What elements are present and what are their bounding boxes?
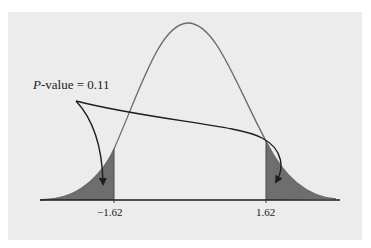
p-letter: P [33, 77, 41, 92]
tick-label-right: 1.62 [256, 206, 275, 218]
normal-curve-plot [0, 0, 371, 248]
tick-label-left: −1.62 [97, 206, 122, 218]
p-value-text: -value = 0.11 [41, 77, 110, 92]
p-value-annotation: P-value = 0.11 [33, 77, 110, 93]
arrow-to-left-tail [76, 101, 103, 182]
p-value-figure: P-value = 0.11 −1.62 1.62 [0, 0, 371, 248]
